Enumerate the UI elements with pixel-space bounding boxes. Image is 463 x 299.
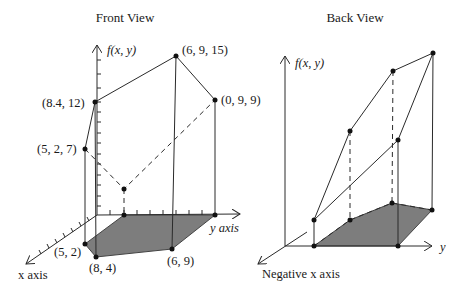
back-view-title: Back View (326, 10, 384, 25)
back-top-edges (314, 53, 433, 220)
back-z-axis-label: f(x, y) (295, 56, 324, 70)
point-label-6-9-15: (6, 9, 15) (182, 43, 228, 57)
front-view-title: Front View (96, 10, 155, 25)
front-y-axis-label: y axis (208, 221, 239, 235)
point-label-5-2-7: (5, 2, 7) (37, 142, 77, 156)
back-x-axis-label: Negative x axis (262, 267, 340, 281)
back-hidden-post-back (392, 71, 393, 203)
front-view: Front View f(x, y) (18, 10, 261, 282)
front-hidden-edges (85, 100, 215, 189)
front-z-axis-label: f(x, y) (107, 43, 136, 57)
front-y-axis (97, 214, 240, 215)
back-post-right (432, 53, 433, 210)
back-view: Back View f(x, y) y Negative x axis (258, 10, 446, 281)
point-label-8-4: (8, 4) (89, 261, 116, 275)
point-label-0-9-9: (0, 9, 9) (221, 93, 261, 107)
back-y-axis-label: y (438, 240, 446, 254)
point-label-5-2: (5, 2) (54, 245, 81, 259)
back-base-region (314, 203, 432, 246)
point-label-8.4-12: (8.4, 12) (42, 96, 85, 110)
back-x-axis (258, 232, 307, 264)
front-base-region (85, 215, 215, 257)
front-post-8-4 (95, 102, 96, 257)
point-label-6-9: (6, 9) (167, 254, 194, 268)
front-top-edges (85, 56, 215, 149)
figure-canvas: Front View f(x, y) (0, 0, 463, 299)
front-z-axis-ticks (97, 60, 101, 206)
front-x-axis-label: x axis (18, 268, 48, 282)
